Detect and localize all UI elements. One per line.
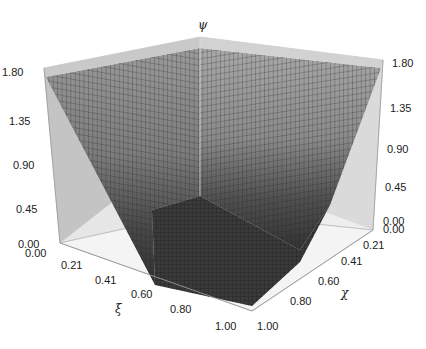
svg-text:0.00: 0.00 <box>25 247 46 259</box>
svg-text:0.41: 0.41 <box>341 255 362 267</box>
svg-text:0.41: 0.41 <box>95 274 116 286</box>
svg-text:1.35: 1.35 <box>390 102 411 114</box>
svg-text:0.45: 0.45 <box>16 203 37 215</box>
svg-text:0.60: 0.60 <box>131 288 152 300</box>
psi-axis-title: ψ <box>198 18 208 32</box>
surface-plot-figure: 1.80 1.35 0.90 0.45 0.00 1.80 1.35 0.90 … <box>0 0 426 349</box>
z-ticks-right: 1.80 1.35 0.90 0.45 0.00 <box>383 57 413 227</box>
svg-text:0.90: 0.90 <box>387 143 408 155</box>
chi-axis-title: χ <box>340 286 349 300</box>
svg-text:0.45: 0.45 <box>385 181 406 193</box>
z-ticks-left: 1.80 1.35 0.90 0.45 0.00 <box>2 66 39 250</box>
svg-text:0.60: 0.60 <box>318 275 339 287</box>
svg-text:0.21: 0.21 <box>61 259 82 271</box>
svg-text:0.90: 0.90 <box>13 159 34 171</box>
surface-plot-canvas: 1.80 1.35 0.90 0.45 0.00 1.80 1.35 0.90 … <box>0 0 426 349</box>
xi-axis-title: ξ <box>115 302 123 316</box>
svg-text:0.80: 0.80 <box>170 303 191 315</box>
svg-text:1.80: 1.80 <box>2 66 23 78</box>
svg-text:0.00: 0.00 <box>383 223 404 235</box>
svg-text:1.35: 1.35 <box>9 115 30 127</box>
svg-text:0.21: 0.21 <box>363 239 384 251</box>
svg-text:1.00: 1.00 <box>257 320 278 332</box>
svg-text:0.80: 0.80 <box>290 295 311 307</box>
svg-text:1.80: 1.80 <box>392 57 413 69</box>
svg-text:1.00: 1.00 <box>215 320 236 332</box>
